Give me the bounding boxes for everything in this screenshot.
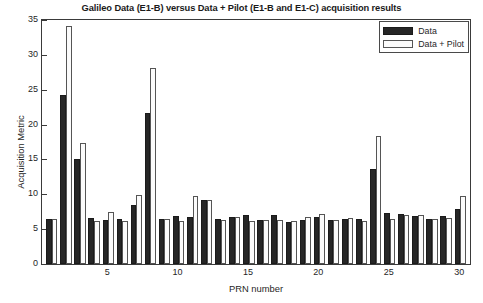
bars-layer [42, 20, 470, 264]
bar-data [271, 215, 277, 264]
y-axis-tick-label: 0 [4, 258, 38, 268]
legend-item[interactable]: Data + Pilot [383, 37, 464, 50]
y-axis-tick-mark [42, 90, 47, 91]
bar-data-pilot [404, 215, 410, 264]
bar-data-pilot [390, 219, 396, 264]
bar-data [46, 219, 52, 264]
bar-data [257, 220, 263, 264]
bar-data [74, 159, 80, 264]
bar-group [340, 20, 354, 264]
bar-group [228, 20, 242, 264]
bar-data [328, 220, 334, 264]
bar-data [60, 95, 66, 264]
bar-group [369, 20, 383, 264]
bar-data-pilot [418, 215, 424, 264]
bar-data-pilot [136, 195, 142, 264]
legend-item-label: Data [418, 26, 437, 36]
bar-data-pilot [193, 196, 199, 264]
bar-data [215, 219, 221, 264]
bar-data-pilot [432, 219, 438, 264]
bar-data [398, 214, 404, 264]
legend-swatch-icon [383, 27, 413, 35]
y-axis-tick-label: 25 [4, 84, 38, 94]
bar-group [214, 20, 228, 264]
bar-data-pilot [277, 220, 283, 264]
x-axis-tick-label: 10 [158, 267, 198, 277]
bar-data-pilot [94, 221, 100, 264]
bar-data [455, 209, 461, 264]
bar-data-pilot [305, 217, 311, 264]
bar-data-pilot [207, 200, 213, 264]
bar-data [159, 219, 165, 264]
bar-group [355, 20, 369, 264]
bar-data [145, 113, 151, 264]
legend-item-label: Data + Pilot [418, 39, 464, 49]
bar-data [300, 220, 306, 264]
bar-group [172, 20, 186, 264]
x-axis-tick-label: 5 [87, 267, 127, 277]
chart-title: Galileo Data (E1-B) versus Data + Pilot … [0, 3, 483, 13]
bar-data [426, 219, 432, 264]
y-axis-tick-mark [42, 159, 47, 160]
bar-group [73, 20, 87, 264]
bar-data [412, 216, 418, 264]
bar-group [242, 20, 256, 264]
bar-group [129, 20, 143, 264]
bar-group [115, 20, 129, 264]
bar-data-pilot [460, 196, 466, 264]
plot-area: DataData + Pilot [41, 19, 471, 265]
bar-group [397, 20, 411, 264]
y-axis-tick-label: 15 [4, 153, 38, 163]
bar-data-pilot [319, 214, 325, 264]
bar-group [270, 20, 284, 264]
bar-data [342, 219, 348, 264]
bar-data [131, 205, 137, 264]
y-axis-tick-label: 10 [4, 188, 38, 198]
bar-data [370, 169, 376, 264]
bar-data-pilot [122, 221, 128, 264]
bar-group [59, 20, 73, 264]
bar-data-pilot [221, 220, 227, 264]
y-axis-tick-label: 30 [4, 49, 38, 59]
legend-swatch-icon [383, 40, 413, 48]
bar-data [117, 219, 123, 264]
bar-data [243, 215, 249, 264]
bar-data-pilot [249, 221, 255, 264]
x-axis-tick-label: 30 [439, 267, 479, 277]
bar-group [425, 20, 439, 264]
bar-data [187, 217, 193, 264]
bar-data-pilot [108, 212, 114, 264]
bar-group [186, 20, 200, 264]
bar-data [173, 216, 179, 264]
bar-data-pilot [52, 219, 58, 264]
bar-data-pilot [376, 136, 382, 264]
bar-group [411, 20, 425, 264]
bar-data-pilot [333, 220, 339, 264]
bar-data [88, 218, 94, 264]
bar-group [256, 20, 270, 264]
bar-data-pilot [164, 219, 170, 264]
bar-data [314, 217, 320, 264]
y-axis-tick-mark [42, 264, 47, 265]
legend-item[interactable]: Data [383, 24, 464, 37]
x-axis-title: PRN number [41, 283, 471, 294]
bar-data [103, 220, 109, 264]
y-axis-tick-mark [42, 125, 47, 126]
chart-figure: Galileo Data (E1-B) versus Data + Pilot … [0, 0, 483, 303]
y-axis-tick-mark [42, 55, 47, 56]
y-axis-tick-mark [42, 194, 47, 195]
y-axis-tick-label: 20 [4, 119, 38, 129]
bar-data [384, 213, 390, 264]
bar-data-pilot [263, 220, 269, 264]
x-axis-tick-label: 15 [228, 267, 268, 277]
bar-data [356, 219, 362, 264]
y-axis-tick-mark [42, 20, 47, 21]
chart-legend: DataData + Pilot [379, 21, 469, 53]
bar-data-pilot [348, 218, 354, 264]
bar-data [229, 217, 235, 264]
x-axis-tick-label: 25 [369, 267, 409, 277]
y-axis-title: Acquisition Metric [15, 72, 26, 232]
bar-data-pilot [362, 221, 368, 264]
bar-group [284, 20, 298, 264]
bar-data-pilot [235, 217, 241, 264]
